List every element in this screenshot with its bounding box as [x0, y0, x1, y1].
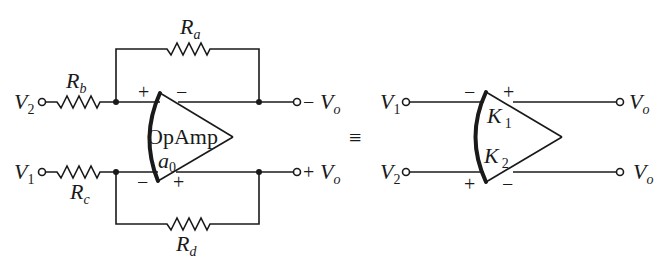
sign-output-top: − — [176, 81, 187, 103]
resistor-label-rb: Rb — [65, 68, 86, 96]
sign-input-bottom-right: + — [464, 173, 475, 195]
output-label-bottom: Vo — [320, 159, 340, 187]
output-label-bottom-right: Vo — [633, 159, 653, 187]
gain-label-k1: K1 — [486, 103, 512, 131]
junction-node — [113, 169, 119, 175]
resistor-rb: Rb — [46, 68, 117, 108]
input-v2: V2 — [14, 89, 46, 117]
sign-output-bottom-right: − — [502, 173, 513, 195]
output-label-top-right: Vo — [629, 89, 649, 117]
equivalence-symbol: ≡ — [349, 125, 361, 150]
terminal-output-bottom-right — [617, 169, 624, 176]
sign-output-top-right: + — [503, 81, 514, 103]
output-plus-vo: + Vo — [294, 159, 341, 187]
gain-label-k2: K2 — [483, 143, 509, 171]
output-sign-bottom: + — [303, 161, 314, 183]
terminal-v2 — [39, 99, 46, 106]
resistor-label-rd: Rd — [175, 231, 197, 259]
resistor-rb-zigzag — [46, 96, 117, 108]
input-label-v2: V2 — [14, 89, 34, 117]
input-label-v2-right: V2 — [380, 159, 400, 187]
terminal-v1 — [39, 169, 46, 176]
equivalent-amp-symbol: K1 K2 − + + − — [464, 81, 562, 195]
opamp-name: OpAmp — [147, 124, 218, 149]
junction-node — [256, 99, 262, 105]
output-vo-bottom-right: Vo — [617, 159, 654, 187]
left-circuit: V2 Rb V1 Rc Ra Rd — [14, 14, 340, 259]
output-minus-vo: − Vo — [294, 89, 341, 117]
opamp-symbol: OpAmp a0 + − − + — [137, 81, 233, 193]
right-circuit: V1 V2 K1 K2 − + + − Vo — [380, 81, 653, 195]
sign-output-bottom: + — [173, 171, 184, 193]
resistor-rc: Rc — [46, 166, 117, 207]
terminal-output-top — [294, 99, 301, 106]
output-label-top: Vo — [320, 89, 340, 117]
sign-input-top-right: − — [464, 81, 475, 103]
input-label-v1-right: V1 — [380, 89, 400, 117]
amp-input-arc — [476, 92, 487, 182]
terminal-v1-right — [403, 99, 410, 106]
terminal-output-top-right — [617, 99, 624, 106]
input-v1: V1 — [14, 159, 46, 187]
junction-node — [113, 99, 119, 105]
resistor-label-rc: Rc — [69, 179, 90, 207]
sign-input-bottom: − — [137, 171, 148, 193]
resistor-rc-zigzag — [46, 166, 117, 178]
output-vo-top-right: Vo — [617, 89, 650, 117]
circuit-diagram: V2 Rb V1 Rc Ra Rd — [0, 0, 661, 272]
input-label-v1: V1 — [14, 159, 34, 187]
resistor-label-ra: Ra — [179, 14, 200, 42]
junction-node — [256, 169, 262, 175]
terminal-v2-right — [403, 169, 410, 176]
terminal-output-bottom — [294, 169, 301, 176]
sign-input-top: + — [138, 81, 149, 103]
output-sign-top: − — [303, 91, 314, 113]
